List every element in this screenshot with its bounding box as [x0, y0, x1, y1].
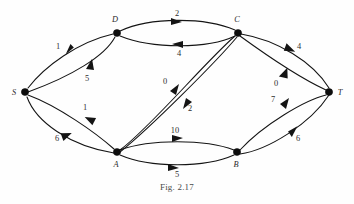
edge-B-A-path [120, 142, 234, 150]
edge-S-D [28, 34, 113, 88]
edge-C-T-path [241, 34, 329, 88]
node-T-dot[interactable] [325, 89, 332, 96]
edge-weight-C-A: 2 [188, 104, 192, 113]
edge-weight-B-A: 10 [171, 126, 179, 135]
node-A-label: A [112, 160, 119, 169]
figure-container: 1 5 2 4 4 0 0 2 1 6 10 5 7 6 S D C T [0, 0, 354, 204]
edge-A-C-arrowhead [170, 84, 179, 95]
edge-weight-C-T: 4 [297, 42, 302, 51]
edge-weight-T-C: 0 [274, 79, 278, 88]
node-D-dot[interactable] [113, 30, 120, 37]
node-A-dot[interactable] [113, 149, 120, 156]
node-T-label: T [338, 88, 344, 97]
edge-weight-S-D: 1 [56, 42, 60, 51]
edge-C-T [241, 34, 329, 88]
edge-A-B [120, 155, 234, 171]
edge-A-S-arrowhead [83, 114, 96, 125]
edge-D-C [120, 18, 235, 31]
node-B-label: B [233, 160, 238, 169]
edge-S-A-arrowhead [60, 129, 73, 141]
edge-weight-C-D: 4 [177, 49, 182, 58]
node-S-dot[interactable] [21, 89, 28, 96]
node-S-label: S [12, 88, 17, 97]
node-B[interactable]: B [233, 149, 240, 169]
edge-D-C-arrowhead [171, 18, 182, 25]
node-A[interactable]: A [112, 149, 120, 169]
node-C-dot[interactable] [234, 30, 241, 37]
node-D-label: D [111, 15, 118, 24]
edge-D-S-arrowhead [86, 59, 94, 70]
edge-S-A [27, 97, 114, 153]
node-D[interactable]: D [111, 15, 121, 36]
edge-B-A-arrowhead [172, 135, 183, 142]
edge-C-D-arrowhead [172, 41, 183, 48]
edge-T-B-arrowhead [280, 98, 289, 109]
edge-S-D-path [28, 34, 113, 88]
edge-weight-B-T: 6 [296, 134, 300, 143]
edge-T-C [240, 36, 326, 90]
edge-T-B [240, 95, 326, 150]
node-C-label: C [234, 15, 240, 24]
edge-A-S [28, 95, 114, 149]
figure-caption: Fig. 2.17 [0, 182, 354, 192]
edge-A-S-path [28, 95, 114, 149]
edge-weight-A-C: 0 [163, 77, 167, 86]
edge-T-C-path [240, 36, 326, 90]
edge-S-D-arrowhead [65, 44, 75, 55]
edge-weight-D-S: 5 [85, 74, 89, 83]
edge-weight-A-B: 5 [175, 170, 179, 179]
edge-A-B-path [120, 155, 234, 165]
edge-S-A-path [27, 97, 114, 153]
edge-weight-S-A: 6 [55, 134, 59, 143]
node-B-dot[interactable] [233, 149, 240, 156]
graph-canvas: 1 5 2 4 4 0 0 2 1 6 10 5 7 6 S D C T [0, 0, 354, 204]
node-S[interactable]: S [12, 88, 29, 97]
edge-weight-A-S: 1 [83, 103, 87, 112]
edge-weight-D-C: 2 [175, 9, 179, 18]
edge-weight-T-B: 7 [271, 95, 275, 104]
edge-T-C-arrowhead [279, 66, 291, 79]
edge-C-D [120, 36, 235, 48]
node-C[interactable]: C [234, 15, 241, 36]
